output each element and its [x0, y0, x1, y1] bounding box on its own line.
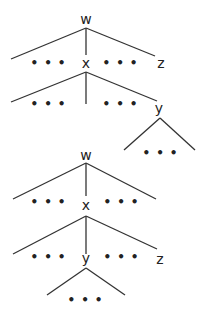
- ellipsis: •••: [142, 147, 183, 159]
- ellipsis: •••: [103, 251, 144, 263]
- ellipsis: •••: [102, 57, 143, 69]
- node-y: y: [82, 251, 90, 265]
- ellipsis: •••: [30, 196, 71, 208]
- ellipsis: •••: [67, 294, 108, 306]
- node-x: x: [82, 56, 90, 70]
- ellipsis: •••: [103, 196, 144, 208]
- ellipsis: •••: [30, 57, 71, 69]
- node-x: x: [82, 198, 90, 212]
- node-w: w: [80, 12, 91, 26]
- node-z: z: [157, 56, 164, 70]
- node-w: w: [80, 148, 91, 162]
- ellipsis: •••: [102, 98, 143, 110]
- node-y: y: [155, 101, 163, 115]
- ellipsis: •••: [30, 251, 71, 263]
- ellipsis: •••: [30, 98, 71, 110]
- node-z: z: [156, 252, 163, 266]
